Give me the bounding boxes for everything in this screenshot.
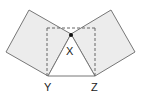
point-x bbox=[69, 33, 73, 37]
label-z: Z bbox=[91, 81, 98, 93]
label-y: Y bbox=[44, 81, 52, 93]
geometry-diagram: X Y Z bbox=[0, 0, 146, 98]
label-x: X bbox=[66, 45, 74, 57]
